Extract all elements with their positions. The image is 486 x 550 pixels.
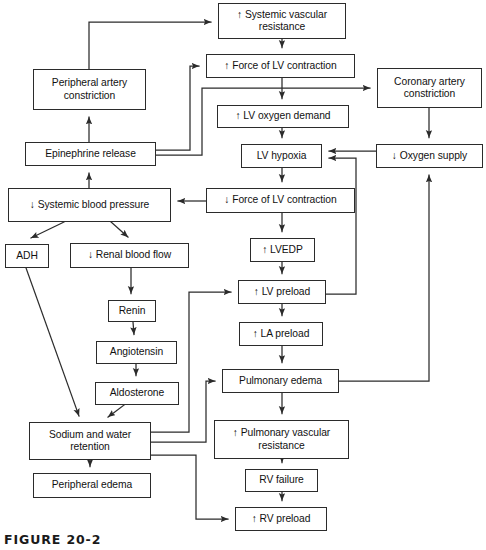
edge-renin-to-angio [133, 322, 134, 335]
node-label: Peripheral edema [52, 479, 132, 491]
node-label: ↑ LV oxygen demand [235, 110, 330, 122]
node-label: ↑ Systemic vascular resistance [237, 9, 327, 33]
node-renin: Renin [108, 300, 156, 322]
node-label: Coronary artery constriction [394, 76, 465, 100]
node-label: LV hypoxia [257, 150, 307, 162]
node-rbf: ↓ Renal blood flow [70, 243, 189, 268]
node-flvc_up: ↑ Force of LV contraction [206, 54, 355, 78]
edge-sbp-to-rbf [111, 222, 128, 237]
node-label: ↑ LVEDP [262, 244, 303, 256]
node-angio: Angiotensin [96, 341, 177, 364]
node-label: Peripheral artery constriction [52, 77, 127, 101]
node-rvfail: RV failure [245, 469, 318, 492]
edge-sodium-to-rvpre [151, 455, 228, 519]
node-label: Angiotensin [110, 346, 163, 358]
edge-pac-to-svr [89, 22, 211, 69]
node-label: Renin [119, 305, 146, 317]
node-label: ↓ Systemic blood pressure [30, 199, 150, 211]
node-label: Sodium and water retention [49, 429, 131, 453]
node-label: RV failure [259, 474, 304, 486]
node-label: Epinephrine release [45, 148, 136, 160]
node-label: ↑ Pulmonary vascular resistance [233, 427, 330, 451]
node-lvedp: ↑ LVEDP [250, 238, 315, 262]
node-svr: ↑ Systemic vascular resistance [218, 3, 346, 39]
node-sbp: ↓ Systemic blood pressure [8, 188, 171, 222]
node-label: ↑ Force of LV contraction [224, 60, 336, 72]
node-cac: Coronary artery constriction [377, 68, 482, 108]
node-aldo: Aldosterone [95, 382, 179, 405]
node-label: ADH [16, 250, 38, 262]
node-label: Aldosterone [110, 387, 164, 399]
node-o2supply: ↓ Oxygen supply [376, 144, 483, 168]
node-lvhyp: LV hypoxia [241, 144, 322, 168]
node-adh: ADH [5, 244, 49, 268]
node-label: ↓ Force of LV contraction [224, 194, 336, 206]
node-pac: Peripheral artery constriction [33, 69, 146, 110]
node-label: ↓ Renal blood flow [88, 249, 171, 261]
node-rvpre: ↑ RV preload [235, 507, 327, 531]
edge-adh-to-sodium [26, 268, 79, 416]
node-lvpre: ↑ LV preload [238, 280, 326, 304]
edge-epi-to-flvc-up [156, 66, 199, 150]
edge-lvpre-to-lvhyp [326, 158, 356, 294]
node-lapre: ↑ LA preload [239, 322, 323, 346]
node-label: Pulmonary edema [239, 375, 322, 387]
node-flvc_down: ↓ Force of LV contraction [206, 188, 355, 213]
node-periph_edema: Peripheral edema [33, 473, 151, 498]
node-label: ↑ RV preload [252, 513, 311, 525]
edge-aldo-to-sodium [108, 405, 124, 417]
node-pvr: ↑ Pulmonary vascular resistance [214, 420, 349, 459]
figure-caption: FIGURE 20-2 [4, 532, 101, 547]
node-label: ↓ Oxygen supply [392, 150, 467, 162]
figure-container: ↑ Systemic vascular resistancePeripheral… [0, 0, 486, 550]
node-sodium: Sodium and water retention [29, 422, 151, 460]
node-label: ↑ LV preload [254, 286, 310, 298]
node-label: ↑ LA preload [253, 328, 310, 340]
node-epi: Epinephrine release [25, 142, 156, 166]
edge-sbp-to-adh [31, 222, 64, 238]
node-lvod: ↑ LV oxygen demand [217, 105, 349, 128]
node-pedema: Pulmonary edema [222, 369, 339, 393]
